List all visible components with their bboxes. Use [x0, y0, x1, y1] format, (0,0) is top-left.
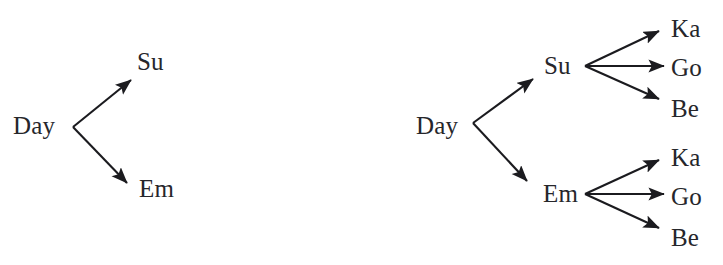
- right-node-day: Day: [416, 113, 458, 138]
- right-edge-su-to-ka: [585, 31, 659, 66]
- right-node-su: Su: [544, 53, 571, 78]
- figure-canvas: Day Su Em Day Su Em Ka Go Be Ka Go Be: [0, 0, 723, 265]
- right-node-em: Em: [543, 181, 578, 206]
- left-node-day: Day: [13, 113, 55, 138]
- right-node-em-ka: Ka: [671, 145, 701, 170]
- right-node-em-go: Go: [671, 184, 702, 209]
- right-edge-su-to-be: [585, 66, 659, 99]
- right-edge-day-to-em: [473, 123, 527, 181]
- right-node-em-be: Be: [671, 225, 699, 250]
- right-edge-day-to-su: [473, 79, 533, 123]
- right-node-su-go: Go: [671, 55, 702, 80]
- left-edge-day-to-su: [73, 80, 131, 127]
- right-edge-em-to-ka: [585, 160, 659, 194]
- right-edge-em-to-be: [585, 194, 659, 228]
- edge-layer: [0, 0, 723, 265]
- right-node-su-be: Be: [671, 96, 699, 121]
- right-node-su-ka: Ka: [671, 16, 701, 41]
- left-edge-day-to-em: [73, 127, 127, 183]
- left-node-su: Su: [137, 49, 164, 74]
- left-node-em: Em: [139, 176, 174, 201]
